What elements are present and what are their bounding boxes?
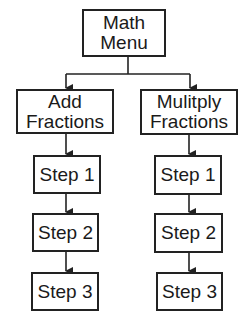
node-multiply-step-3: Step 3 xyxy=(156,272,223,311)
node-multiply-fractions: Mulitply Fractions xyxy=(140,89,238,135)
node-multiply-step-3-label: Step 3 xyxy=(162,282,217,302)
node-multiply-step-1: Step 1 xyxy=(154,155,222,195)
node-add-step-3-label: Step 3 xyxy=(38,282,93,302)
node-multiply-step-2: Step 2 xyxy=(154,213,223,253)
node-add-step-3: Step 3 xyxy=(31,272,99,311)
node-add-step-2-label: Step 2 xyxy=(38,223,93,243)
node-math-menu-label: Math Menu xyxy=(100,13,148,53)
node-math-menu: Math Menu xyxy=(82,9,166,57)
node-add-step-2: Step 2 xyxy=(32,213,99,252)
node-add-step-1-label: Step 1 xyxy=(40,165,95,185)
node-add-step-1: Step 1 xyxy=(33,155,101,194)
node-multiply-fractions-label: Mulitply Fractions xyxy=(150,92,228,132)
flowchart-canvas: Math Menu Add Fractions Mulitply Fractio… xyxy=(0,0,245,319)
node-add-fractions: Add Fractions xyxy=(16,89,114,134)
node-multiply-step-2-label: Step 2 xyxy=(161,223,216,243)
node-multiply-step-1-label: Step 1 xyxy=(161,165,216,185)
node-add-fractions-label: Add Fractions xyxy=(26,92,104,132)
